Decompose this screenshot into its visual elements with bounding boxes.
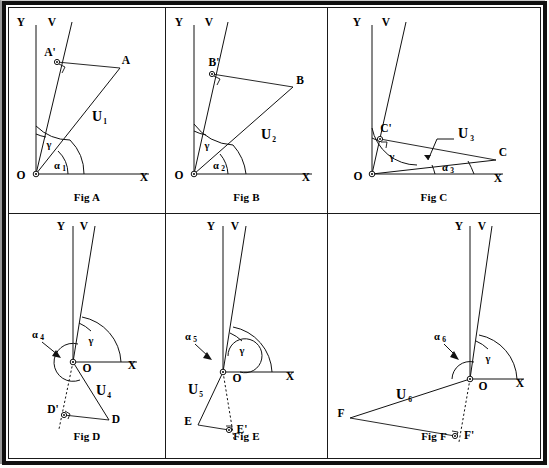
gamma-arc-outer xyxy=(372,128,417,165)
axis-v-label: V xyxy=(231,220,240,232)
right-angle-mark xyxy=(381,142,387,148)
alpha-label: α xyxy=(434,331,440,342)
panel-fig-f: Y V X O F' F U 6 γ α 6 Fig F xyxy=(328,214,540,458)
axis-y-label: Y xyxy=(353,16,362,28)
axis-y-label: Y xyxy=(17,16,26,28)
alpha-sub-label: 5 xyxy=(193,335,197,344)
vector-label: U xyxy=(96,383,106,398)
vector-leader-arrow xyxy=(424,155,431,160)
gamma-arc xyxy=(36,134,46,137)
projection-label: C' xyxy=(380,122,392,134)
vector-sub-label: 3 xyxy=(470,134,474,143)
alpha-sub-label: 6 xyxy=(442,335,446,344)
alpha-sub-label: 4 xyxy=(40,333,44,342)
v-axis-extension-dashed xyxy=(59,362,73,429)
axis-x-label: X xyxy=(128,359,137,371)
projection-point-dot xyxy=(211,73,213,75)
origin-dot xyxy=(72,361,74,363)
panel-caption-f: Fig F xyxy=(328,430,540,442)
origin-dot xyxy=(371,173,373,175)
gamma-label: γ xyxy=(485,353,491,364)
alpha-arc-inner xyxy=(432,165,435,174)
gamma-arc-outer xyxy=(194,124,233,145)
axis-x-label: X xyxy=(140,171,149,183)
gamma-label: γ xyxy=(46,139,52,150)
projection-label: A' xyxy=(44,46,56,58)
projection-line xyxy=(57,62,120,68)
projection-line xyxy=(380,139,496,160)
figure-page: Y V X O A' A U 1 γ α 1 Fig A xyxy=(0,0,549,468)
vector-sub-label: 1 xyxy=(103,117,107,126)
origin-dot xyxy=(469,378,471,380)
point-label: C xyxy=(499,146,507,158)
origin-dot xyxy=(35,173,37,175)
alpha-label: α xyxy=(185,331,191,342)
vector-sub-label: 6 xyxy=(408,395,412,404)
origin-label: O xyxy=(175,169,184,181)
gamma-label: γ xyxy=(88,335,94,346)
figure-grid: Y V X O A' A U 1 γ α 1 Fig A xyxy=(9,8,540,458)
alpha-sub-label: 1 xyxy=(62,164,66,173)
point-label: E xyxy=(184,415,192,427)
vector-label: U xyxy=(458,126,468,141)
panel-caption-b: Fig B xyxy=(166,191,327,203)
panel-caption-c: Fig C xyxy=(328,191,540,203)
gamma-arc xyxy=(476,341,488,349)
axis-v-label: V xyxy=(478,220,487,232)
axis-x-label: X xyxy=(302,171,311,183)
panel-caption-a: Fig A xyxy=(9,191,165,203)
panel-fig-e: Y V X O E' E U 5 γ α 5 Fig E xyxy=(166,214,327,458)
origin-label: O xyxy=(83,362,92,374)
alpha-label: α xyxy=(213,160,219,171)
axis-y-label: Y xyxy=(175,16,184,28)
axis-v-label: V xyxy=(382,16,391,28)
axis-v-label: V xyxy=(80,220,89,232)
alpha-sub-label: 2 xyxy=(221,164,225,173)
projection-line xyxy=(64,415,109,420)
alpha-label: α xyxy=(442,162,448,173)
gamma-label: γ xyxy=(389,151,395,162)
projection-label: B' xyxy=(209,56,220,68)
projection-point-dot xyxy=(63,414,65,416)
vector-sub-label: 4 xyxy=(107,391,111,400)
panel-fig-b: Y V X O B' B U 2 γ α 2 Fig B xyxy=(166,8,327,213)
point-label: B xyxy=(296,74,304,86)
panel-caption-d: Fig D xyxy=(9,430,165,442)
vector-line xyxy=(194,87,293,174)
vector-label: U xyxy=(261,127,271,142)
axis-y-label: Y xyxy=(455,220,464,232)
gamma-arc xyxy=(79,323,91,331)
origin-label: O xyxy=(233,372,242,384)
alpha-arc-reflex xyxy=(228,339,262,373)
point-label: A xyxy=(122,54,131,66)
vector-label: U xyxy=(188,382,198,397)
axis-x-label: X xyxy=(494,172,503,184)
origin-label: O xyxy=(479,380,488,392)
vector-sub-label: 2 xyxy=(272,135,276,144)
vector-sub-label: 5 xyxy=(199,390,203,399)
axis-x-label: X xyxy=(286,370,295,382)
panel-fig-c: Y V X O C' C U 3 γ α 3 Fig C xyxy=(328,8,540,213)
alpha-arc xyxy=(233,145,246,174)
projection-label: D' xyxy=(47,403,59,415)
point-label: F xyxy=(337,407,344,419)
axis-v-label: V xyxy=(48,16,57,28)
alpha-sub-label: 3 xyxy=(450,166,454,175)
origin-dot xyxy=(193,173,195,175)
axis-v-line xyxy=(194,22,228,174)
axis-y-label: Y xyxy=(57,220,66,232)
projection-point-dot xyxy=(56,61,58,63)
axis-y-label: Y xyxy=(207,220,216,232)
origin-label: O xyxy=(354,170,363,182)
panel-fig-a: Y V X O A' A U 1 γ α 1 Fig A xyxy=(9,8,165,213)
point-label: D xyxy=(112,413,120,425)
gamma-label: γ xyxy=(239,345,245,356)
origin-dot xyxy=(222,371,224,373)
alpha-label: α xyxy=(32,329,38,340)
axis-v-label: V xyxy=(205,16,214,28)
alpha-label: α xyxy=(54,160,60,171)
axis-x-label: X xyxy=(516,377,525,389)
origin-label: O xyxy=(17,169,26,181)
gamma-label: γ xyxy=(204,140,210,151)
projection-line xyxy=(212,74,293,87)
